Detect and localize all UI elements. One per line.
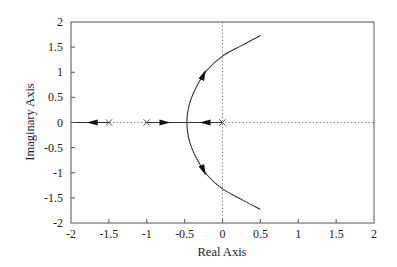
- x-tick-label: 2: [371, 227, 377, 241]
- x-tick-label: -2: [66, 227, 76, 241]
- x-tick-label: -1.5: [99, 227, 118, 241]
- x-tick-label: -0.5: [175, 227, 194, 241]
- x-tick-label: 1: [295, 227, 301, 241]
- y-tick-label: -2: [53, 216, 63, 230]
- y-axis-ticks: -2-1.5-1-0.500.511.52: [44, 15, 75, 230]
- locus-branch: [187, 123, 260, 210]
- direction-arrow-icon: [87, 120, 98, 126]
- x-tick-label: 0: [220, 227, 226, 241]
- x-axis-ticks: -2-1.5-1-0.500.511.52: [66, 219, 377, 241]
- y-tick-label: -0.5: [44, 141, 63, 155]
- y-axis-title: Imaginary Axis: [23, 83, 37, 161]
- direction-arrow-icon: [159, 120, 170, 126]
- y-tick-label: -1.5: [44, 191, 63, 205]
- x-axis-title: Real Axis: [198, 245, 247, 259]
- locus-branch: [187, 36, 260, 123]
- direction-arrow-icon: [200, 120, 211, 126]
- root-locus-chart: -2-1.5-1-0.500.511.52 -2-1.5-1-0.500.511…: [0, 0, 397, 267]
- y-tick-label: 2: [57, 15, 63, 29]
- y-tick-label: -1: [53, 166, 63, 180]
- y-tick-label: 1: [57, 65, 63, 79]
- y-tick-label: 0: [57, 116, 63, 130]
- x-tick-label: -1: [142, 227, 152, 241]
- x-tick-label: 0.5: [253, 227, 268, 241]
- direction-arrow-icon: [199, 70, 206, 81]
- y-tick-label: 0.5: [48, 90, 63, 104]
- direction-arrow-icon: [199, 164, 206, 175]
- y-tick-label: 1.5: [48, 40, 63, 54]
- x-tick-label: 1.5: [329, 227, 344, 241]
